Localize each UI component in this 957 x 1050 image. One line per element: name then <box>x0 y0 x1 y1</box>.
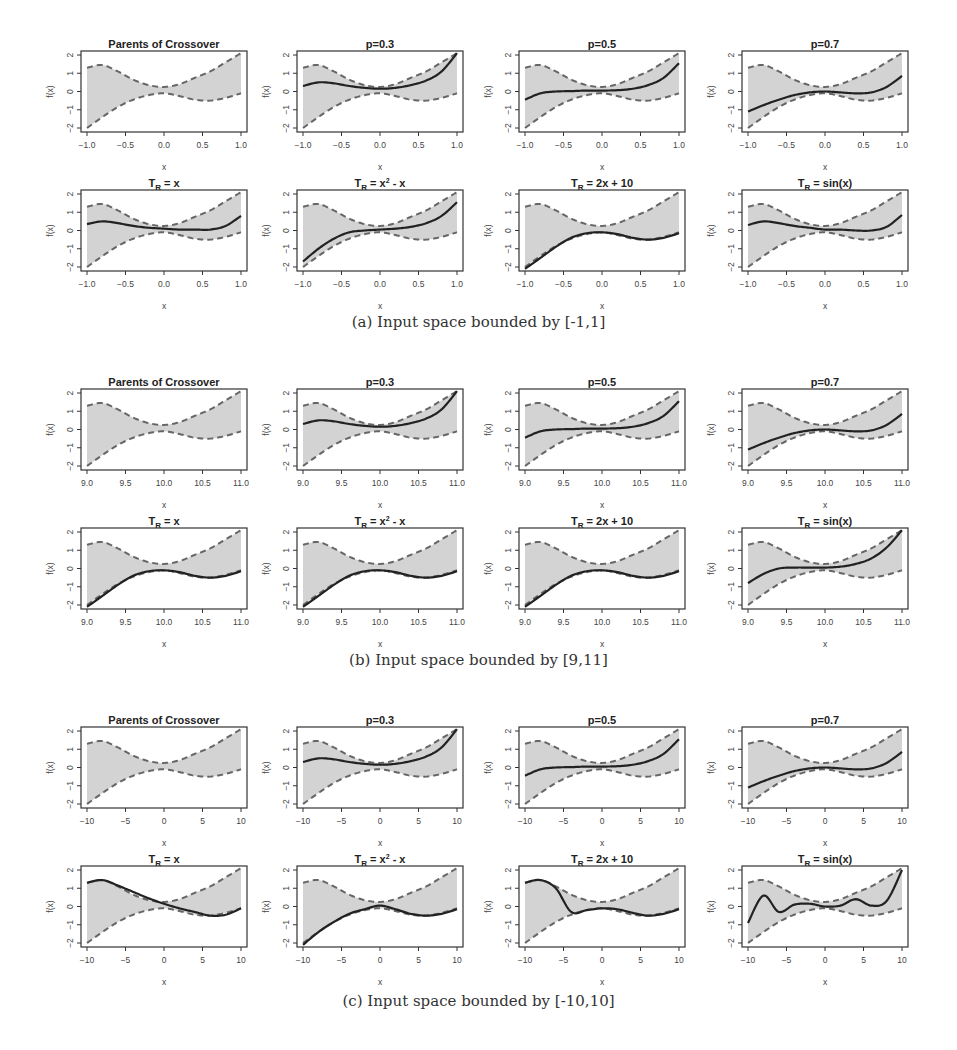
x-tick-label: −10 <box>518 955 533 965</box>
y-tick-label: −2 <box>726 600 736 610</box>
y-tick-label: −1 <box>281 781 291 791</box>
y-tick-label: 2 <box>726 867 736 872</box>
x-tick-label: −5 <box>337 816 347 826</box>
y-tick-label: −2 <box>503 600 513 610</box>
y-tick-label: −2 <box>281 600 291 610</box>
y-tick-label: 1 <box>726 71 736 76</box>
plot-c-1: p=0.3−2−1012f(x)−10−50510x <box>261 714 463 848</box>
plot-title: p=0.5 <box>588 714 616 726</box>
y-tick-label: 2 <box>503 529 513 534</box>
x-tick-label: −5 <box>337 955 347 965</box>
y-tick-label: −1 <box>726 920 736 930</box>
x-tick-label: 9.0 <box>297 617 309 627</box>
parent-band <box>87 729 241 804</box>
y-tick-label: −1 <box>503 443 513 453</box>
x-tick-label: −10 <box>741 816 756 826</box>
x-tick-label: −0.5 <box>333 140 350 150</box>
x-tick-label: 10 <box>674 816 684 826</box>
x-tick-label: 10.5 <box>410 617 427 627</box>
x-axis-label: x <box>823 639 828 648</box>
x-tick-label: 10.0 <box>817 478 834 488</box>
x-axis-label: x <box>162 162 167 172</box>
y-tick-label: −1 <box>65 244 75 254</box>
x-tick-label: 5 <box>200 816 205 826</box>
x-tick-label: 5 <box>200 955 205 965</box>
y-axis-label: f(x) <box>706 562 716 574</box>
x-tick-label: 0.5 <box>635 279 647 289</box>
x-tick-label: 10.0 <box>372 478 389 488</box>
y-tick-label: −2 <box>503 123 513 133</box>
y-tick-label: 1 <box>503 210 513 215</box>
plot-a-2: p=0.5−2−1012f(x)−1.0−0.50.00.51.0x <box>483 38 685 172</box>
x-tick-label: 9.5 <box>336 617 348 627</box>
x-axis-label: x <box>162 838 167 848</box>
x-tick-label: −0.5 <box>778 279 795 289</box>
y-tick-label: −2 <box>503 799 513 809</box>
x-tick-label: −1.0 <box>740 140 757 150</box>
y-axis-label: f(x) <box>261 224 271 236</box>
caption-b: (b) Input space bounded by [9,11] <box>0 651 957 669</box>
y-tick-label: 1 <box>503 548 513 553</box>
y-tick-label: 2 <box>726 191 736 196</box>
plot-b-1: p=0.3−2−1012f(x)9.09.510.010.511.0x <box>261 376 465 510</box>
x-axis-label: x <box>162 639 167 648</box>
y-tick-label: 0 <box>726 566 736 571</box>
x-tick-label: 10.5 <box>194 478 211 488</box>
y-axis-label: f(x) <box>706 224 716 236</box>
y-tick-label: −2 <box>65 938 75 948</box>
plot-title: Parents of Crossover <box>108 714 220 726</box>
x-tick-label: 9.0 <box>519 617 531 627</box>
y-tick-label: −2 <box>65 600 75 610</box>
x-tick-label: −0.5 <box>117 140 134 150</box>
x-axis-label: x <box>600 500 605 510</box>
x-tick-label: 0.0 <box>819 279 831 289</box>
plot-c-3: p=0.7−2−1012f(x)−10−50510x <box>706 714 908 848</box>
x-tick-label: 10 <box>897 955 907 965</box>
plot-title: p=0.3 <box>366 38 394 50</box>
x-tick-label: 0.0 <box>158 279 170 289</box>
y-tick-label: −2 <box>726 938 736 948</box>
plot-b-5: TR = x2 - x−2−1012f(x)9.09.510.010.511.0… <box>261 515 465 648</box>
x-tick-label: 1.0 <box>896 140 908 150</box>
plot-a-5: TR = x2 - x−2−1012f(x)−1.0−0.50.00.51.0x <box>261 177 463 310</box>
x-tick-label: −1.0 <box>79 140 96 150</box>
y-axis-label: f(x) <box>261 562 271 574</box>
x-axis-label: x <box>600 977 605 986</box>
y-tick-label: −1 <box>65 105 75 115</box>
y-tick-label: 1 <box>726 886 736 891</box>
y-tick-label: 0 <box>65 765 75 770</box>
x-tick-label: 10.0 <box>594 617 611 627</box>
y-tick-label: 1 <box>726 747 736 752</box>
y-tick-label: −2 <box>726 123 736 133</box>
y-tick-label: −1 <box>503 582 513 592</box>
x-tick-label: −0.5 <box>555 279 572 289</box>
y-tick-label: 2 <box>65 191 75 196</box>
x-tick-label: 10.5 <box>632 617 649 627</box>
y-tick-label: −2 <box>281 123 291 133</box>
x-tick-label: −10 <box>296 816 311 826</box>
x-axis-label: x <box>823 500 828 510</box>
x-tick-label: −1.0 <box>295 279 312 289</box>
plot-b-0: Parents of Crossover−2−1012f(x)9.09.510.… <box>45 376 249 510</box>
x-axis-label: x <box>378 500 383 510</box>
x-tick-label: 9.0 <box>519 478 531 488</box>
y-tick-label: −2 <box>281 262 291 272</box>
y-axis-label: f(x) <box>483 85 493 97</box>
x-tick-label: 10 <box>452 955 462 965</box>
x-tick-label: 0 <box>600 955 605 965</box>
parent-band <box>87 391 241 466</box>
y-tick-label: 0 <box>726 228 736 233</box>
y-tick-label: 0 <box>281 566 291 571</box>
y-tick-label: −2 <box>503 938 513 948</box>
parent-band <box>525 530 679 605</box>
y-tick-label: 1 <box>281 210 291 215</box>
x-tick-label: 1.0 <box>896 279 908 289</box>
y-tick-label: 1 <box>281 747 291 752</box>
y-tick-label: 2 <box>65 52 75 57</box>
y-tick-label: 1 <box>65 548 75 553</box>
plot-a-0: Parents of Crossover−2−1012f(x)−1.0−0.50… <box>45 38 247 172</box>
x-tick-label: 0 <box>823 816 828 826</box>
y-tick-label: −2 <box>65 799 75 809</box>
parent-band <box>303 729 457 804</box>
x-tick-label: 10 <box>236 816 246 826</box>
